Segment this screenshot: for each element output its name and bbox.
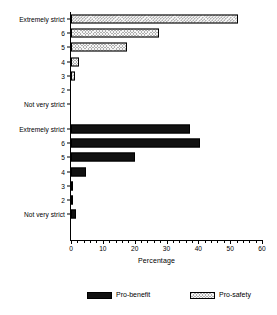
chart-row: 3 xyxy=(0,179,277,193)
x-axis-minor-tick xyxy=(109,240,110,243)
x-axis-tick-label: 50 xyxy=(226,245,233,253)
y-axis-label-2: 2 xyxy=(61,197,65,204)
y-axis-label-not-very-strict: Not very strict xyxy=(24,101,65,108)
x-axis-minor-tick xyxy=(249,240,250,243)
y-axis-label-5: 5 xyxy=(61,154,65,161)
bar-pro-benefit-6 xyxy=(71,139,200,148)
bar-fill xyxy=(71,43,127,52)
x-axis-minor-tick xyxy=(160,240,161,243)
legend-swatch-pro-benefit xyxy=(87,292,112,299)
bar-pro-safety-4 xyxy=(71,57,79,66)
x-axis-minor-tick xyxy=(84,240,85,243)
x-axis-minor-tick xyxy=(243,240,244,243)
bar-fill xyxy=(71,71,75,80)
x-axis-minor-tick xyxy=(141,240,142,243)
chart-row: 4 xyxy=(0,165,277,179)
x-axis-major-tick xyxy=(198,240,199,244)
x-axis-tick-label: 30 xyxy=(163,245,170,253)
y-axis-tick xyxy=(67,75,70,76)
x-axis-minor-tick xyxy=(116,240,117,243)
bar-pro-benefit-not-very-strict xyxy=(71,210,76,219)
x-axis-minor-tick xyxy=(173,240,174,243)
panel-pro-benefit: Extremely strict65432Not very strict xyxy=(0,122,277,221)
x-axis-major-tick xyxy=(135,240,136,244)
chart-row: 2 xyxy=(0,193,277,207)
x-axis-major-tick xyxy=(103,240,104,244)
bar-fill xyxy=(71,210,76,219)
y-axis-tick xyxy=(67,47,70,48)
bar-fill xyxy=(71,139,200,148)
x-axis-minor-tick xyxy=(96,240,97,243)
bar-fill xyxy=(71,153,135,162)
x-axis-minor-tick xyxy=(122,240,123,243)
bar-pro-benefit-4 xyxy=(71,167,86,176)
x-axis-tick-label: 0 xyxy=(69,245,73,253)
x-axis-minor-tick xyxy=(205,240,206,243)
y-axis-tick xyxy=(67,90,70,91)
x-axis-tick-label: 20 xyxy=(131,245,138,253)
chart-row: 5 xyxy=(0,40,277,54)
x-axis-major-tick xyxy=(71,240,72,244)
panel-pro-safety: Extremely strict65432Not very strict xyxy=(0,12,277,111)
bar-fill xyxy=(71,181,73,190)
chart-row: 4 xyxy=(0,55,277,69)
x-axis-minor-tick xyxy=(237,240,238,243)
x-axis-title: Percentage xyxy=(0,257,277,264)
legend-swatch-pro-safety xyxy=(190,292,215,299)
bar-fill xyxy=(71,196,73,205)
y-axis-label-extremely-strict: Extremely strict xyxy=(19,126,65,133)
x-axis-tick-label: 60 xyxy=(258,245,265,253)
y-axis-tick xyxy=(67,104,70,105)
x-axis-minor-tick xyxy=(179,240,180,243)
y-axis-tick xyxy=(67,185,70,186)
chart-row: 6 xyxy=(0,26,277,40)
y-axis-tick xyxy=(67,61,70,62)
x-axis-tick-label: 10 xyxy=(99,245,106,253)
y-axis-tick xyxy=(67,214,70,215)
x-axis-minor-tick xyxy=(128,240,129,243)
y-axis-label-not-very-strict: Not very strict xyxy=(24,211,65,218)
x-axis-minor-tick xyxy=(90,240,91,243)
chart-row: Extremely strict xyxy=(0,12,277,26)
x-axis-major-tick xyxy=(262,240,263,244)
y-axis-tick xyxy=(67,157,70,158)
chart-row: Extremely strict xyxy=(0,122,277,136)
chart-row: Not very strict xyxy=(0,207,277,221)
chart-row: 6 xyxy=(0,136,277,150)
bar-pro-benefit-5 xyxy=(71,153,135,162)
y-axis-label-3: 3 xyxy=(61,72,65,79)
x-axis-minor-tick xyxy=(154,240,155,243)
x-axis-minor-tick xyxy=(211,240,212,243)
bar-pro-safety-extremely-strict xyxy=(71,15,238,24)
x-axis-minor-tick xyxy=(256,240,257,243)
bar-pro-safety-6 xyxy=(71,29,159,38)
x-axis-major-tick xyxy=(167,240,168,244)
x-axis-minor-tick xyxy=(224,240,225,243)
bar-chart: Extremely strict65432Not very strict Ext… xyxy=(0,0,277,315)
bar-fill xyxy=(71,125,190,134)
x-axis-major-tick xyxy=(230,240,231,244)
x-axis-minor-tick xyxy=(77,240,78,243)
y-axis-tick xyxy=(67,143,70,144)
bar-pro-benefit-extremely-strict xyxy=(71,125,190,134)
bar-pro-safety-5 xyxy=(71,43,127,52)
y-axis-label-extremely-strict: Extremely strict xyxy=(19,16,65,23)
legend-label-pro-safety: Pro-safety xyxy=(219,291,251,299)
x-axis-minor-tick xyxy=(147,240,148,243)
chart-row: 2 xyxy=(0,83,277,97)
x-axis-minor-tick xyxy=(217,240,218,243)
y-axis-label-4: 4 xyxy=(61,168,65,175)
chart-row: 5 xyxy=(0,150,277,164)
y-axis-tick xyxy=(67,171,70,172)
x-axis-minor-tick xyxy=(192,240,193,243)
y-axis-label-2: 2 xyxy=(61,87,65,94)
bar-pro-benefit-2 xyxy=(71,196,73,205)
chart-row: 3 xyxy=(0,69,277,83)
y-axis-label-3: 3 xyxy=(61,182,65,189)
bar-fill xyxy=(71,29,159,38)
x-axis-tick-label: 40 xyxy=(195,245,202,253)
bar-pro-benefit-3 xyxy=(71,181,73,190)
bar-fill xyxy=(71,57,79,66)
y-axis-tick xyxy=(67,19,70,20)
legend-item-pro-benefit: Pro-benefit xyxy=(87,291,150,299)
